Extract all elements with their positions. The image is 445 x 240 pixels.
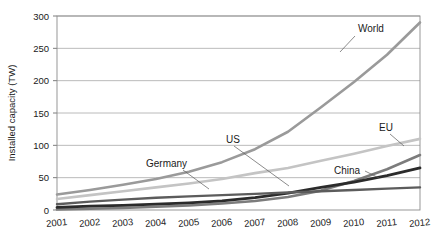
x-tick-label: 2006: [211, 216, 233, 229]
x-tick-label: 2004: [145, 216, 167, 229]
y-axis-title: Installed capacity (TW): [6, 65, 17, 162]
x-tick-label: 2010: [343, 216, 365, 229]
series-label-germany: Germany: [146, 158, 187, 169]
x-tick-label: 2002: [79, 216, 101, 229]
x-tick-label: 2011: [376, 216, 397, 229]
x-tick-label: 2008: [277, 216, 299, 229]
x-tick-label: 2009: [310, 216, 332, 229]
series-label-world: World: [358, 23, 384, 34]
series-label-china: China: [334, 165, 361, 176]
series-label-us: US: [226, 134, 240, 145]
y-tick-label: 50: [38, 172, 49, 183]
y-tick-label: 100: [33, 140, 49, 151]
y-tick-label: 200: [33, 75, 49, 86]
y-tick-label: 0: [44, 205, 49, 216]
series-label-eu: EU: [379, 122, 393, 133]
x-tick-label: 2001: [46, 216, 68, 229]
y-tick-label: 150: [33, 108, 49, 119]
y-tick-label: 300: [33, 11, 49, 22]
line-chart: 050100150200250300 200120022003200420052…: [0, 0, 445, 240]
x-tick-label: 2005: [178, 216, 200, 229]
x-tick-label: 2007: [244, 216, 266, 229]
y-tick-label: 250: [33, 43, 49, 54]
chart-container: 050100150200250300 200120022003200420052…: [0, 0, 445, 240]
x-tick-label: 2003: [112, 216, 134, 229]
x-tick-label: 2012: [409, 216, 431, 229]
